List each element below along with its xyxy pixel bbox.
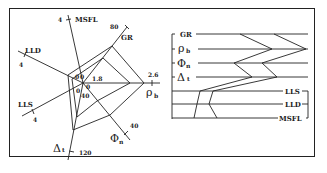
- label-zero: 0: [75, 73, 79, 80]
- label-gr: GR: [180, 30, 192, 39]
- label-gr: GR: [121, 33, 133, 42]
- label-lld: LLD: [25, 46, 41, 55]
- label-gr-max: 80: [110, 23, 118, 30]
- label-dt: Δ: [177, 71, 185, 84]
- label-lls: LLS: [285, 87, 300, 96]
- label-phi-max: 40: [130, 122, 138, 129]
- label-lld-max: 4: [19, 61, 23, 68]
- label-rho-sub: b: [154, 92, 158, 99]
- label-rho-max: 2.6: [148, 71, 158, 78]
- label-dt-max: 120: [79, 149, 92, 156]
- label-lls: LLS: [18, 100, 33, 109]
- label-dt-sub: t: [187, 75, 190, 82]
- radar-plot: 4 MSFL 80 GR 2.6 1.8 ρ b 40 Φ n Δ t 120 …: [18, 15, 160, 160]
- label-msfl: MSFL: [75, 15, 98, 24]
- label-msfl-max: 4: [58, 16, 62, 23]
- label-rho: ρ: [146, 86, 152, 99]
- label-rho-min: 1.8: [92, 75, 102, 82]
- label-lls-max: 4: [33, 116, 37, 123]
- label-dt-min: 40: [81, 92, 89, 99]
- label-msfl: MSFL: [279, 114, 302, 123]
- label-zero: 0: [80, 73, 84, 80]
- label-zero: 0: [86, 83, 90, 90]
- label-dt-sub: t: [62, 146, 65, 153]
- log-curve-1: [194, 34, 272, 118]
- log-panel: GR ρ b Φ n Δ t LLS LLD MSFL: [172, 30, 308, 123]
- label-phi: Φ: [177, 57, 186, 70]
- label-phi-sub: n: [186, 62, 191, 69]
- tick-msfl: [66, 19, 71, 20]
- label-phi: Φ: [110, 132, 119, 145]
- axis-phi: [83, 83, 130, 140]
- label-dt: Δ: [53, 142, 61, 155]
- label-phi-sub: n: [119, 138, 124, 145]
- label-rho-sub: b: [186, 47, 190, 54]
- label-zero: 0: [76, 87, 80, 94]
- label-lld: LLD: [285, 100, 301, 109]
- well-log-diagram: 4 MSFL 80 GR 2.6 1.8 ρ b 40 Φ n Δ t 120 …: [0, 0, 327, 173]
- label-rho: ρ: [178, 42, 184, 55]
